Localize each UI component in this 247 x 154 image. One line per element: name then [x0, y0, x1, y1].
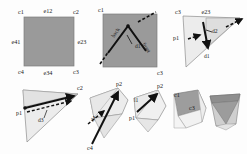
label-d3: d3	[38, 117, 44, 123]
label-c4: c4	[18, 68, 24, 75]
label-c1: c1	[98, 6, 104, 13]
panel-8-final-solid-frustum	[207, 88, 247, 144]
panel-4-triangle-with-d3: d3 c2 p1	[14, 80, 92, 150]
label-d1: d1	[135, 43, 141, 49]
label-c1: c1	[174, 91, 180, 98]
label-d2: d2	[212, 28, 218, 34]
label-c3: c3	[73, 68, 79, 75]
panel-1-quad-with-corner-and-edge-labels: c1 e12 c2 e41 e23 c4 e34 c3	[8, 4, 88, 78]
label-p1: p1	[173, 34, 179, 41]
figure-canvas: c1 e12 c2 e41 e23 c4 e34 c3	[0, 0, 247, 154]
label-e23: e23	[78, 38, 87, 45]
label-p1: p1	[129, 114, 135, 121]
label-c3: c3	[175, 8, 181, 15]
split-vertex	[126, 24, 130, 28]
label-c2: c2	[77, 84, 83, 91]
panel-2-quad-with-diagonal-split: d1 back front c1 c3	[94, 4, 174, 78]
label-c3: c3	[189, 104, 195, 111]
label-c2: c2	[73, 8, 79, 15]
label-p1: p1	[16, 109, 22, 116]
polygon-face-lower	[136, 118, 158, 132]
label-c1: c1	[18, 8, 24, 15]
label-e34: e34	[44, 69, 53, 76]
label-e12: e12	[44, 7, 53, 14]
polygon-face-lower	[94, 114, 122, 138]
label-l1: l1	[134, 97, 139, 103]
arrow-origin-dot	[23, 106, 27, 110]
panel-6-polygon-with-l1: l1 p2 p1	[128, 84, 178, 146]
label-c3: c3	[157, 69, 163, 76]
panel-3-triangle-with-d1-d2: d2 d1 c3 e23 p1	[170, 4, 247, 78]
label-e41: e41	[12, 38, 21, 45]
label-p2: p2	[116, 80, 122, 87]
label-c4: c4	[87, 144, 93, 151]
label-e23: e23	[202, 8, 211, 15]
quad-face	[24, 17, 74, 66]
label-p2: p2	[157, 82, 163, 89]
label-d1: d1	[204, 53, 210, 59]
